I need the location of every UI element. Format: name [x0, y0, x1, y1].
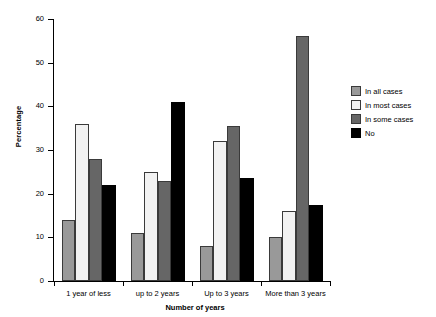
- x-axis-tick: [192, 281, 193, 286]
- legend-swatch-icon: [351, 86, 361, 96]
- y-axis-tick-label: 30: [22, 146, 44, 154]
- bar: [75, 124, 89, 281]
- bar: [158, 181, 172, 281]
- x-axis-tick-label: More than 3 years: [261, 289, 330, 298]
- bar: [282, 211, 296, 281]
- bar: [227, 126, 241, 281]
- bar: [171, 102, 185, 281]
- x-axis-title: Number of years: [0, 303, 390, 312]
- bar: [102, 185, 116, 281]
- legend: In all casesIn most casesIn some casesNo: [351, 84, 413, 140]
- legend-swatch-icon: [351, 114, 361, 124]
- x-axis-tick-label: Up to 3 years: [192, 289, 261, 298]
- bar: [309, 205, 323, 281]
- x-axis-tick-label: up to 2 years: [123, 289, 192, 298]
- bar-chart: Percentage 0102030405060 1 year of lessu…: [0, 0, 436, 317]
- y-axis-tick-label: 0: [22, 277, 44, 285]
- bar: [213, 141, 227, 281]
- x-axis-tick: [261, 281, 262, 286]
- legend-item-label: No: [365, 129, 375, 138]
- bar: [269, 237, 283, 281]
- y-axis-title: Percentage: [14, 87, 23, 167]
- legend-item-label: In all cases: [365, 87, 403, 96]
- legend-item: In all cases: [351, 84, 413, 98]
- legend-swatch-icon: [351, 128, 361, 138]
- bar: [131, 233, 145, 281]
- x-axis-tick: [330, 281, 331, 286]
- y-axis-tick-label: 20: [22, 190, 44, 198]
- bar-group: [54, 19, 123, 281]
- bar: [62, 220, 76, 281]
- legend-item-label: In some cases: [365, 115, 413, 124]
- legend-item-label: In most cases: [365, 101, 411, 110]
- bar: [144, 172, 158, 281]
- x-axis-tick-label: 1 year of less: [54, 289, 123, 298]
- legend-item: In most cases: [351, 98, 413, 112]
- y-axis-tick-label: 50: [22, 59, 44, 67]
- y-axis-tick-label: 60: [22, 15, 44, 23]
- bar: [240, 178, 254, 281]
- legend-item: In some cases: [351, 112, 413, 126]
- bar: [89, 159, 103, 281]
- x-axis-tick: [54, 281, 55, 286]
- plot-area: [54, 19, 330, 281]
- bar-group: [261, 19, 330, 281]
- bar: [296, 36, 310, 281]
- x-axis-tick: [123, 281, 124, 286]
- bar: [200, 246, 214, 281]
- y-axis-tick-label: 10: [22, 233, 44, 241]
- bar-group: [123, 19, 192, 281]
- y-axis-tick-label: 40: [22, 102, 44, 110]
- legend-swatch-icon: [351, 100, 361, 110]
- bar-group: [192, 19, 261, 281]
- legend-item: No: [351, 126, 413, 140]
